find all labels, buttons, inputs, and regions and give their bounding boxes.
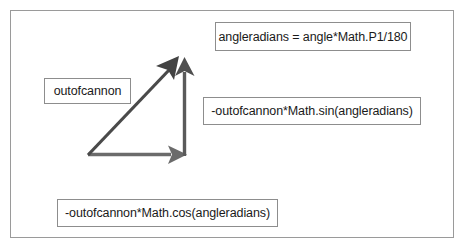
sin-component-formula-box: -outofcannon*Math.sin(angleradians) xyxy=(203,97,421,125)
angleradians-formula-box: angleradians = angle*Math.P1/180 xyxy=(215,22,411,51)
diagram-canvas: angleradians = angle*Math.P1/180 outofca… xyxy=(0,0,464,250)
outofcannon-label-text: outofcannon xyxy=(54,84,122,98)
cos-component-formula-box: -outofcannon*Math.cos(angleradians) xyxy=(57,199,278,227)
cos-component-formula-text: -outofcannon*Math.cos(angleradians) xyxy=(65,206,270,220)
sin-component-formula-text: -outofcannon*Math.sin(angleradians) xyxy=(211,104,413,118)
angleradians-formula-text: angleradians = angle*Math.P1/180 xyxy=(219,30,408,44)
outofcannon-label-box: outofcannon xyxy=(44,78,131,104)
